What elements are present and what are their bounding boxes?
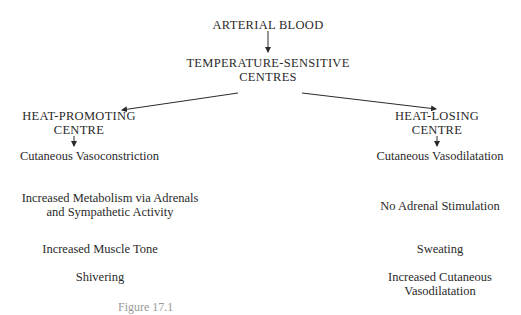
right-effect-increased-line1: Increased Cutaneous xyxy=(370,270,510,284)
right-effect-sweating: Sweating xyxy=(400,242,480,256)
figure-caption: Figure 17.1 xyxy=(118,300,173,315)
arterial-blood-node: ARTERIAL BLOOD xyxy=(208,18,328,32)
heat-losing-title1: HEAT-LOSING xyxy=(382,109,492,123)
heat-promoting-title1: HEAT-PROMOTING xyxy=(14,109,144,123)
temperature-centres-line1: TEMPERATURE-SENSITIVE xyxy=(178,56,358,70)
left-effect-muscle-tone: Increased Muscle Tone xyxy=(30,242,170,256)
right-effect-increased-line2: Vasodilatation xyxy=(370,284,510,298)
left-effect-metabolism-line1: Increased Metabolism via Adrenals xyxy=(10,191,210,205)
heat-losing-title2: CENTRE xyxy=(382,123,492,137)
left-effect-metabolism-line2: and Sympathetic Activity xyxy=(10,205,210,219)
heat-promoting-title2: CENTRE xyxy=(14,123,144,137)
left-effect-shivering: Shivering xyxy=(60,270,140,284)
left-effect-vasoconstriction: Cutaneous Vasoconstriction xyxy=(20,149,166,163)
temperature-centres-line2: CENTRES xyxy=(178,70,358,84)
right-effect-no-adrenal: No Adrenal Stimulation xyxy=(370,199,510,213)
right-effect-vasodilatation: Cutaneous Vasodilatation xyxy=(370,149,510,163)
